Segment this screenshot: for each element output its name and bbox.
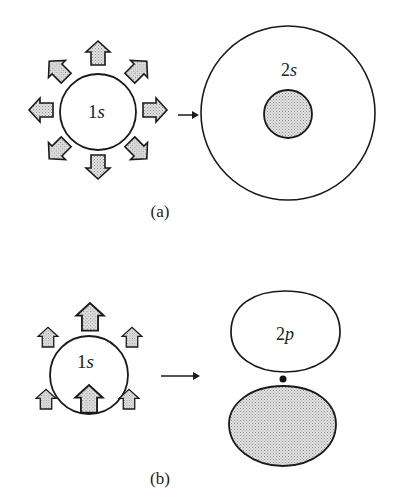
arrow-icon [122, 327, 142, 347]
orbital-2s-node [264, 90, 312, 138]
arrow-icon [121, 53, 155, 87]
arrow-icon [29, 98, 53, 122]
panel-b: 1s 2p (b) [36, 291, 340, 488]
nucleus-dot [280, 376, 287, 383]
label-1s-b: 1s [77, 351, 94, 372]
orbital-diagram: 1s 2s (a) 1s [0, 0, 409, 493]
orbital-2p-lower-lobe [229, 386, 336, 466]
arrow-icon [86, 41, 110, 65]
label-2s: 2s [281, 60, 297, 80]
caption-a: (a) [151, 202, 170, 221]
transition-arrow-a [178, 111, 199, 119]
arrow-icon [86, 155, 110, 179]
arrow-icon [36, 389, 56, 409]
arrow-icon [143, 98, 167, 122]
arrow-icon [38, 327, 58, 347]
label-1s-a: 1s [88, 101, 105, 122]
transition-arrow-b [161, 372, 200, 380]
caption-b: (b) [150, 469, 170, 488]
arrow-icon [76, 303, 104, 331]
label-2p: 2p [276, 324, 294, 344]
panel-a: 1s 2s (a) [29, 26, 375, 221]
arrow-icon [41, 53, 75, 87]
